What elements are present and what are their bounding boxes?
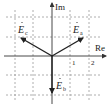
- label-e-a-main: E: [72, 24, 79, 35]
- label-e-b-sub: b: [63, 86, 66, 92]
- dot-accent: [59, 78, 60, 79]
- label-e-a: E a: [72, 22, 83, 36]
- label-e-a-sub: a: [80, 30, 83, 36]
- imag-axis-label: Im: [55, 2, 65, 12]
- dot-accent: [76, 22, 77, 23]
- phasor-e-c: [21, 38, 52, 56]
- x-tick-1: 1: [72, 59, 76, 67]
- label-e-c: E c: [17, 22, 28, 36]
- phasor-diagram: Im Re 1 2 E a E c E b: [0, 0, 110, 107]
- label-e-c-sub: c: [25, 30, 28, 36]
- x-tick-2: 2: [91, 59, 95, 67]
- label-e-b-main: E: [55, 80, 62, 91]
- phasor-e-a: [52, 38, 83, 56]
- label-e-b: E b: [55, 78, 66, 92]
- dot-accent: [21, 22, 22, 23]
- real-axis-label: Re: [95, 43, 105, 53]
- label-e-c-main: E: [17, 24, 24, 35]
